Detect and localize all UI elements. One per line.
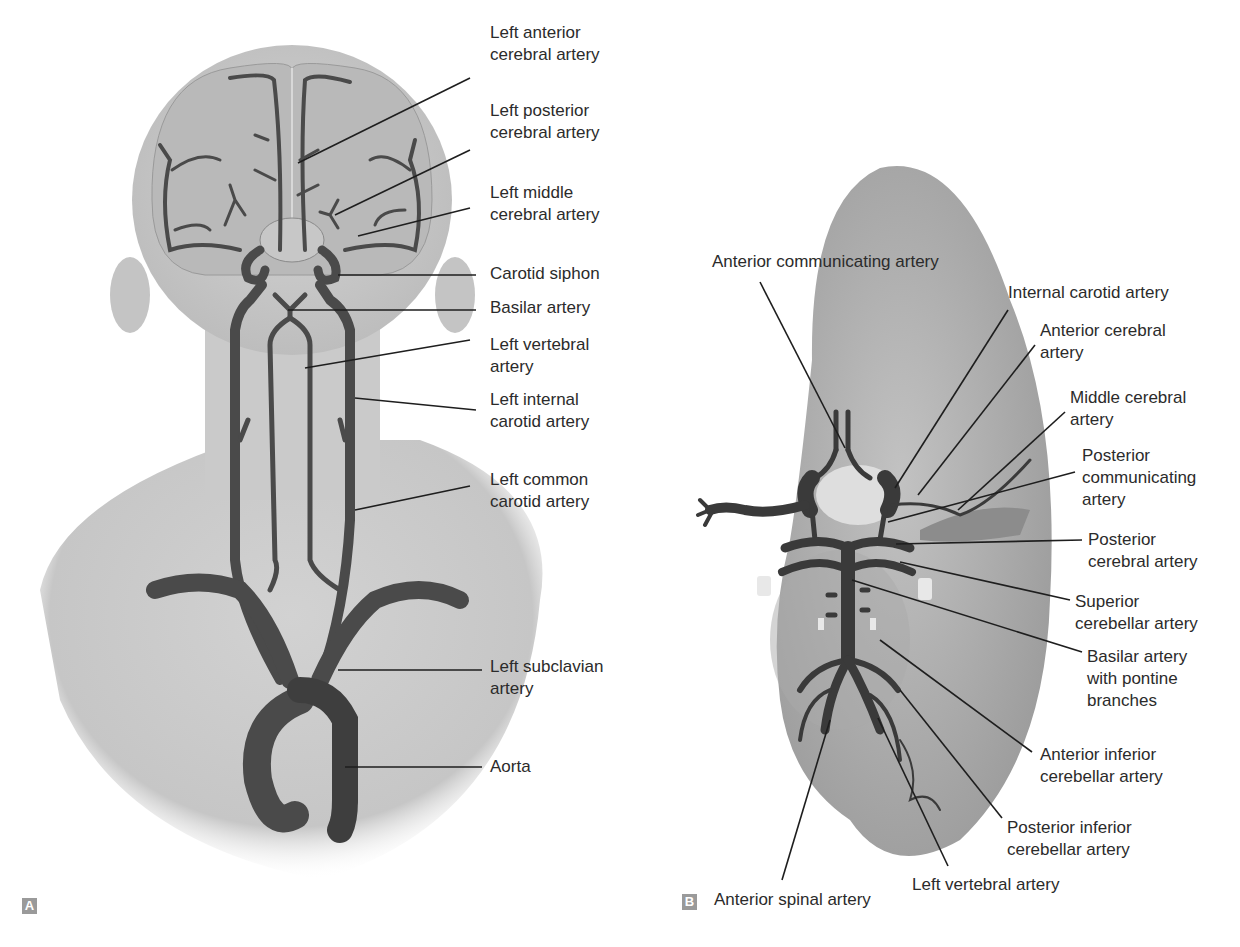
label-middle-cerebral-artery: Middle cerebral artery	[1070, 387, 1186, 431]
label-anterior-communicating-artery: Anterior communicating artery	[712, 251, 939, 273]
label-anterior-inferior-cerebellar-artery: Anterior inferior cerebellar artery	[1040, 744, 1163, 788]
panel-tag-b: B	[682, 894, 697, 910]
label-carotid-siphon: Carotid siphon	[490, 263, 600, 285]
label-left-internal-carotid-artery: Left internal carotid artery	[490, 389, 589, 433]
label-posterior-communicating-artery: Posterior communicating artery	[1082, 445, 1196, 511]
label-superior-cerebellar-artery: Superior cerebellar artery	[1075, 591, 1198, 635]
label-internal-carotid-artery: Internal carotid artery	[1008, 282, 1169, 304]
label-anterior-cerebral-artery: Anterior cerebral artery	[1040, 320, 1166, 364]
label-aorta: Aorta	[490, 756, 531, 778]
illustration	[0, 0, 1240, 947]
panel-a-illustration	[40, 45, 543, 880]
label-left-anterior-cerebral-artery: Left anterior cerebral artery	[490, 22, 600, 66]
label-left-common-carotid-artery: Left common carotid artery	[490, 469, 589, 513]
label-left-vertebral-artery: Left vertebral artery	[490, 334, 589, 378]
label-posterior-cerebral-artery: Posterior cerebral artery	[1088, 529, 1198, 573]
label-basilar-artery-with-pontine-branches: Basilar artery with pontine branches	[1087, 646, 1187, 712]
label-left-vertebral-artery-b: Left vertebral artery	[912, 874, 1059, 896]
panel-tag-a: A	[22, 898, 37, 914]
label-posterior-inferior-cerebellar-artery: Posterior inferior cerebellar artery	[1007, 817, 1132, 861]
label-left-middle-cerebral-artery: Left middle cerebral artery	[490, 182, 600, 226]
label-left-posterior-cerebral-artery: Left posterior cerebral artery	[490, 100, 600, 144]
anatomy-figure: Left anterior cerebral artery Left poste…	[0, 0, 1240, 947]
label-left-subclavian-artery: Left subclavian artery	[490, 656, 603, 700]
label-basilar-artery: Basilar artery	[490, 297, 590, 319]
label-anterior-spinal-artery: Anterior spinal artery	[714, 889, 871, 911]
